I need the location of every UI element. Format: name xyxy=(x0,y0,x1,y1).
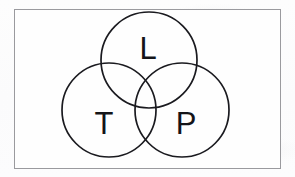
set-label-t: T xyxy=(95,106,114,141)
venn-diagram-figure: L T P xyxy=(0,0,295,177)
set-label-l: L xyxy=(139,31,156,66)
set-label-p: P xyxy=(176,106,197,141)
venn-diagram-canvas: L T P xyxy=(0,0,295,177)
